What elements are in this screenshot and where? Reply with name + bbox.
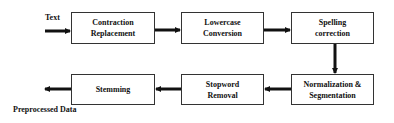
step-label-line2: correction	[315, 28, 350, 39]
step-label-line2: Removal	[206, 90, 239, 101]
step-label-line1: Normalization &	[304, 79, 362, 90]
output-label: Preprocessed Data	[13, 105, 76, 114]
step-contraction-replacement: ContractionReplacement	[71, 12, 155, 44]
step-lowercase-conversion: LowercaseConversion	[181, 12, 264, 44]
step-normalization-segmentation: Normalization &Segmentation	[291, 74, 374, 105]
step-label-line1: Contraction	[91, 17, 135, 28]
step-label-line2: Replacement	[91, 28, 135, 39]
step-stemming: Stemming	[71, 74, 155, 105]
input-label: Text	[45, 13, 60, 22]
step-label-line2: Conversion	[203, 28, 242, 39]
step-spelling-correction: Spellingcorrection	[291, 12, 374, 44]
step-label-line1: Lowercase	[203, 17, 242, 28]
step-stopword-removal: StopwordRemoval	[181, 74, 264, 105]
step-label-line1: Stopword	[206, 79, 239, 90]
step-label-line1: Spelling	[315, 17, 350, 28]
step-label-line1: Stemming	[96, 84, 131, 95]
step-label-line2: Segmentation	[304, 90, 362, 101]
